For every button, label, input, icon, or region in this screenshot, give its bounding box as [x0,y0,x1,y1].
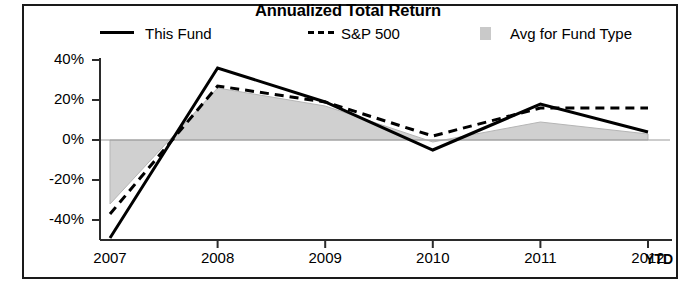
y-axis-tick-label: -20% [22,172,84,186]
x-axis-tick-label: 2011 [505,250,575,265]
plot-area: 40%20%0%-20%-40% 20072008200920102011201… [0,0,696,286]
chart-figure: Annualized Total Return This Fund S&P 50… [0,0,696,286]
x-axis-tick-label: 2008 [183,250,253,265]
y-axis-tick-label: -40% [22,212,84,226]
y-axis-tick-label: 0% [22,132,84,146]
avg-fund-type-area [110,88,648,204]
x-axis-ytd-label: YTD [645,251,673,267]
this-fund-series-line [110,68,648,238]
x-axis-tick-label: 2009 [290,250,360,265]
plot-svg [0,0,696,286]
sp500-series-line [110,86,648,214]
x-axis-tick-label: 2010 [398,250,468,265]
x-axis-tick-label: 2007 [75,250,145,265]
y-axis-tick-label: 20% [22,92,84,106]
axis-lines [92,58,672,248]
y-axis-tick-label: 40% [22,52,84,66]
